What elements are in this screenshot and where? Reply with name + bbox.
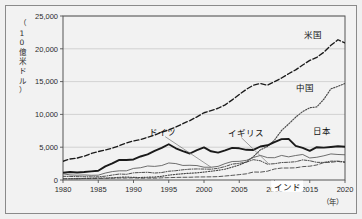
- y-tick-label: 0: [54, 176, 58, 185]
- x-tick-label: 1985: [90, 185, 107, 194]
- x-tick-label: 2005: [231, 185, 248, 194]
- y-tick-label: 15,000: [35, 77, 58, 86]
- series-annotation-5: インド: [274, 182, 301, 192]
- line-chart: 05,00010,00015,00020,00025,000 198019851…: [0, 0, 362, 219]
- x-axis-unit-label: （年）: [322, 197, 343, 207]
- series-annotation-4: イギリス: [228, 128, 264, 138]
- x-axis-tick-labels: 198019851990199520002005201020152020: [55, 185, 354, 194]
- x-tick-label: 1980: [55, 185, 72, 194]
- y-unit-char: ）: [19, 86, 26, 95]
- series-annotation-0: 米国: [304, 30, 322, 40]
- y-unit-char: 米: [19, 56, 27, 66]
- x-tick-label: 2000: [196, 185, 213, 194]
- series-annotation-1: 中国: [296, 83, 314, 93]
- y-tick-label: 20,000: [35, 45, 58, 54]
- x-tick-label: 1995: [160, 185, 177, 194]
- series-annotation-3: ドイツ: [149, 127, 176, 137]
- y-tick-label: 5,000: [39, 143, 58, 152]
- series-annotation-2: 日本: [313, 126, 331, 136]
- y-unit-char: （: [19, 19, 27, 28]
- y-axis-tick-labels: 05,00010,00015,00020,00025,000: [35, 12, 63, 185]
- y-tick-label: 10,000: [35, 110, 58, 119]
- y-unit-char: 億: [19, 47, 27, 57]
- y-unit-char: ド: [19, 67, 26, 76]
- series-line-2: [63, 139, 345, 173]
- y-unit-char: 0: [20, 38, 25, 47]
- plot-area-border: [63, 16, 345, 180]
- series-line-0: [63, 40, 345, 162]
- series-layer: [63, 40, 345, 179]
- x-tick-label: 1990: [125, 185, 142, 194]
- y-axis-unit-label: （10億米ドル）: [19, 19, 27, 95]
- y-unit-char: 1: [20, 29, 25, 38]
- y-unit-char: ル: [19, 77, 27, 86]
- chart-figure: 05,00010,00015,00020,00025,000 198019851…: [0, 0, 362, 219]
- y-tick-label: 25,000: [35, 12, 58, 21]
- x-tick-label: 2020: [337, 185, 354, 194]
- x-tick-label: 2015: [301, 185, 318, 194]
- series-line-1: [63, 83, 345, 178]
